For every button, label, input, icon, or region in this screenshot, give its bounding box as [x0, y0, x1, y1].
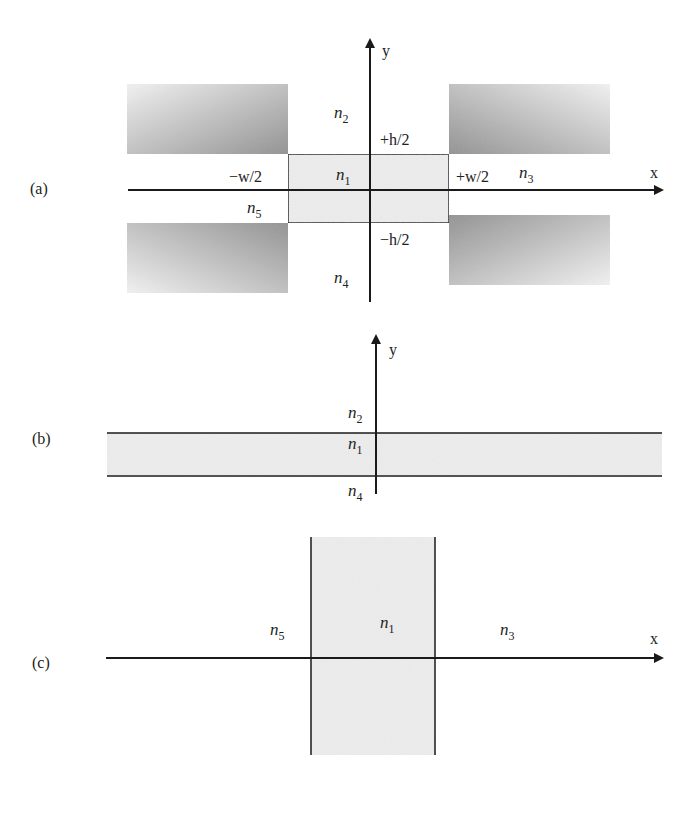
panel-c-label: (c) — [32, 654, 50, 672]
panel-b-label: (b) — [32, 430, 51, 448]
waveguide-diagram: (a) y x n2 n1 n3 n4 n5 +h/2 −h/2 −w/2 +w… — [0, 0, 691, 820]
cladding-block-bottom-right — [449, 215, 610, 285]
panel-b: (b) y n2 n1 n4 — [32, 336, 662, 504]
region-n5-a: n5 — [247, 198, 262, 221]
slab-core-b — [107, 433, 662, 475]
y-axis-label-b: y — [389, 341, 397, 359]
y-axis-label-a: y — [382, 42, 390, 60]
bound-plus-w: +w/2 — [456, 168, 489, 185]
core-rectangle — [288, 154, 449, 223]
bound-minus-h: −h/2 — [380, 231, 409, 248]
x-axis-label-c: x — [650, 630, 658, 647]
region-n3-a: n3 — [519, 163, 534, 186]
region-n3-c: n3 — [500, 620, 515, 643]
region-n2-a: n2 — [334, 103, 349, 126]
slab-core-c — [311, 537, 435, 755]
bound-plus-h: +h/2 — [380, 131, 409, 148]
region-n4-b: n4 — [348, 481, 363, 504]
region-n2-b: n2 — [348, 403, 363, 426]
panel-a-label: (a) — [30, 180, 48, 198]
region-n5-c: n5 — [270, 620, 285, 643]
bound-minus-w: −w/2 — [229, 168, 262, 185]
panel-c: (c) x n5 n1 n3 — [32, 537, 662, 755]
cladding-block-top-right — [449, 84, 610, 154]
cladding-block-top-left — [127, 84, 288, 154]
x-axis-label-a: x — [650, 164, 658, 181]
cladding-block-bottom-left — [127, 223, 288, 293]
panel-a: (a) y x n2 n1 n3 n4 n5 +h/2 −h/2 −w/2 +w… — [30, 40, 662, 302]
region-n4-a: n4 — [334, 268, 349, 291]
